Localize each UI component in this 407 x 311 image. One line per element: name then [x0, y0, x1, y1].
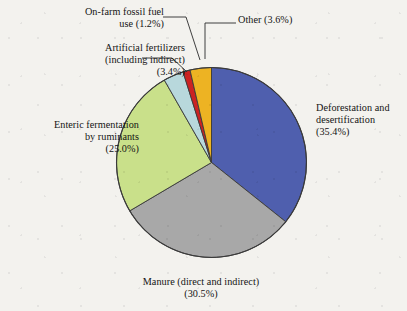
slice-label-enteric-fermentation: Enteric fermentation by ruminants (25.0%…: [54, 119, 139, 155]
slice-label-other: Other (3.6%): [238, 14, 292, 26]
leader-line-other: [205, 23, 236, 59]
pie-chart-svg: Deforestation and desertification (35.4%…: [0, 0, 407, 311]
slice-label-artificial-fertilizers: Artificial fertilizers (including indire…: [105, 42, 185, 78]
pie-chart-figure: Deforestation and desertification (35.4%…: [0, 0, 407, 311]
slice-label-on-farm-fossil-fuel: On-farm fossil fuel use (1.2%): [85, 6, 164, 30]
slice-label-deforestation: Deforestation and desertification (35.4%…: [316, 102, 390, 138]
slice-label-manure: Manure (direct and indirect) (30.5%): [120, 276, 282, 300]
pie-slices-group: Deforestation and desertification (35.4%…: [116, 68, 306, 258]
